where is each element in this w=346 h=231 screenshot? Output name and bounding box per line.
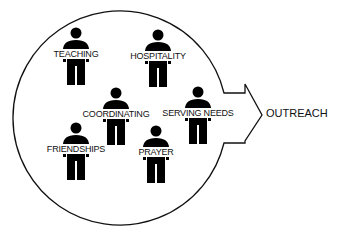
figure-label: PRAYER <box>137 147 174 157</box>
figure-label: HOSPITALITY <box>129 51 187 61</box>
figure-label: TEACHING <box>53 49 100 59</box>
figure-label: FRIENDSHIPS <box>46 144 106 154</box>
outreach-label: OUTREACH <box>266 107 328 119</box>
figure-label: COORDINATING <box>82 109 151 119</box>
figure-label: SERVING NEEDS <box>161 108 234 118</box>
